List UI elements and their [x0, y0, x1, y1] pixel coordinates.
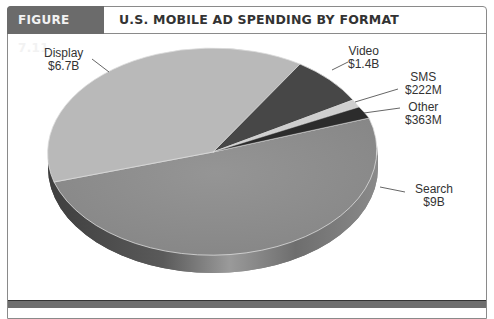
- footer-bar: [8, 300, 486, 308]
- label-display: Display $6.7B: [44, 47, 83, 73]
- label-other: Other $363M: [405, 101, 442, 127]
- label-display-value: $6.7B: [44, 60, 83, 73]
- label-video-value: $1.4B: [348, 58, 379, 71]
- label-sms: SMS $222M: [405, 71, 442, 97]
- label-sms-value: $222M: [405, 84, 442, 97]
- label-other-value: $363M: [405, 114, 442, 127]
- label-video: Video $1.4B: [348, 45, 379, 71]
- label-search-value: $9B: [415, 196, 453, 209]
- label-search: Search $9B: [415, 183, 453, 209]
